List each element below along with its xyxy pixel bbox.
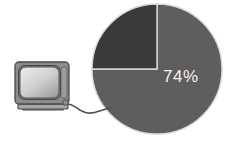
television-set[interactable] <box>15 62 69 110</box>
tv-side-panel <box>61 67 67 98</box>
pie-slice-remainder[interactable] <box>92 4 157 69</box>
illustration-canvas: 74% <box>0 0 227 142</box>
pie-value-label: 74% <box>163 67 199 86</box>
tv-cable-port <box>63 100 68 105</box>
tv-stand-foot <box>18 104 68 109</box>
pie-chart: 74% <box>92 4 222 134</box>
tv-screen[interactable] <box>20 67 59 98</box>
scene-svg: 74% <box>0 0 227 142</box>
